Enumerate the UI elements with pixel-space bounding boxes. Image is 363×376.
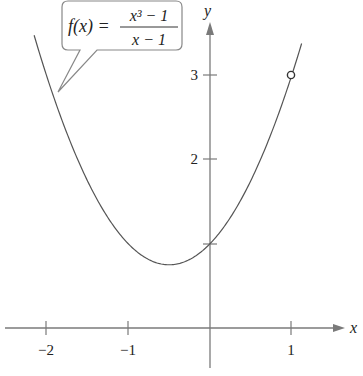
y-axis-label: y [202,2,212,20]
y-axis-arrow-icon [206,22,214,35]
function-label-denominator: x − 1 [131,31,166,48]
plot-area: −2 −1 1 2 3 x y f(x) = x³ − 1 x − 1 [0,0,363,376]
x-tick-label: −1 [120,342,136,358]
x-tick-label: 1 [287,342,295,358]
function-label-numerator: x³ − 1 [129,7,169,24]
open-circle-hole [287,71,294,78]
y-tick-label: 2 [191,151,199,167]
x-axis-label: x [349,319,357,336]
x-axis-arrow-icon [333,324,345,332]
y-tick-label: 3 [191,67,199,83]
x-tick-label: −2 [38,342,54,358]
function-label-lhs: f(x) = [68,16,110,37]
chart: −2 −1 1 2 3 x y f(x) = x³ − 1 x − 1 [0,0,363,376]
